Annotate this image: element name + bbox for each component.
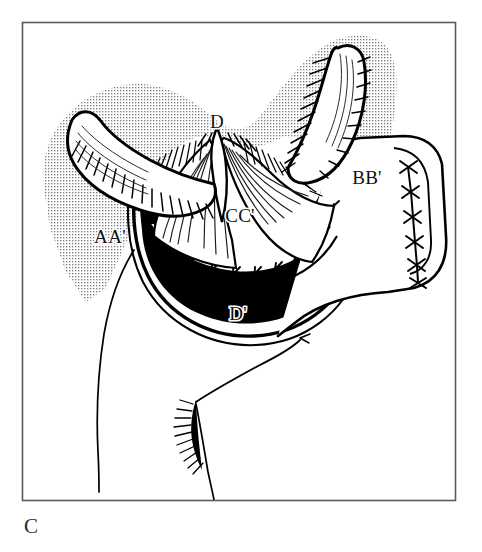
illustration-canvas: D AA' BB' CC' D' C bbox=[0, 0, 482, 552]
label-d-prime: D' bbox=[229, 303, 247, 324]
label-d: D bbox=[210, 111, 224, 132]
label-bb: BB' bbox=[352, 167, 382, 188]
surgical-illustration-figure: D AA' BB' CC' D' C bbox=[0, 0, 482, 552]
figure-caption: C bbox=[24, 514, 38, 538]
label-aa: AA' bbox=[94, 226, 126, 247]
label-cc: CC' bbox=[225, 205, 255, 226]
